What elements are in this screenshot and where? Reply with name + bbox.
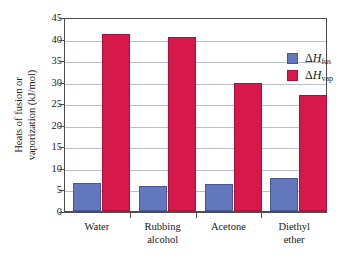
bar-vap	[234, 83, 262, 211]
x-axis-label: Acetone	[196, 221, 262, 234]
bar-vap	[102, 34, 130, 211]
x-axis-label-line: alcohol	[130, 234, 196, 247]
legend-vap-sub: vap	[321, 74, 333, 83]
legend-swatch-fus-icon	[287, 53, 298, 64]
y-axis-tick-label: 5	[0, 185, 62, 195]
bar-fus	[205, 184, 233, 211]
legend-item-fus: ΔHfus	[287, 50, 345, 67]
legend-fus-sub: fus	[321, 57, 331, 66]
y-axis-tick-label: 45	[0, 13, 62, 23]
legend-item-vap: ΔHvap	[287, 67, 345, 84]
x-axis-label-line: Water	[64, 221, 130, 234]
bar-group	[131, 19, 197, 211]
y-axis-tick-label: 35	[0, 56, 62, 66]
bar-group	[262, 19, 328, 211]
x-axis-label-line: Rubbing	[130, 221, 196, 234]
x-axis-label-line: Diethyl	[261, 221, 327, 234]
legend-fus-delta: Δ	[305, 51, 313, 65]
legend-vap-delta: Δ	[305, 68, 313, 82]
legend-label-vap: ΔHvap	[305, 68, 333, 83]
y-axis-tick-label: 40	[0, 35, 62, 45]
bar-group	[197, 19, 263, 211]
x-axis-label: Rubbingalcohol	[130, 221, 196, 246]
bar-fus	[73, 183, 101, 211]
legend-swatch-vap-icon	[287, 70, 298, 81]
legend-label-fus: ΔHfus	[305, 51, 331, 66]
chart-legend: ΔHfus ΔHvap	[287, 50, 345, 84]
y-axis-tick-label: 20	[0, 121, 62, 131]
x-axis-label: Water	[64, 221, 130, 234]
bar-fus	[270, 178, 298, 211]
plot-area: ΔHfus ΔHvap	[64, 18, 327, 212]
category-separator	[261, 212, 262, 218]
y-axis-tick-label: 15	[0, 142, 62, 152]
x-axis-label: Diethylether	[261, 221, 327, 246]
y-axis-tick-label: 0	[0, 207, 62, 217]
bar-vap	[299, 95, 327, 211]
bar-group	[65, 19, 131, 211]
chart-figure: Heats of fusion or vaporization (kJ/mol)…	[0, 0, 345, 261]
y-axis-tick-label: 25	[0, 99, 62, 109]
bar-fus	[139, 186, 167, 211]
y-axis-tick-label: 30	[0, 78, 62, 88]
x-axis-label-line: Acetone	[196, 221, 262, 234]
y-axis-tick-label: 10	[0, 164, 62, 174]
x-axis-label-line: ether	[261, 234, 327, 247]
category-separator	[196, 212, 197, 218]
y-axis-title: Heats of fusion or vaporization (kJ/mol)	[8, 18, 42, 212]
bar-groups	[65, 19, 326, 211]
category-separator	[130, 212, 131, 218]
bar-vap	[168, 37, 196, 211]
